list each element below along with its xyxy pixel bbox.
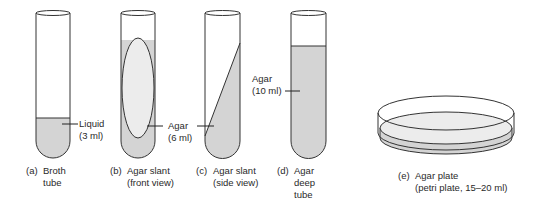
caption-line-2: (petri plate, 15–20 ml) bbox=[398, 182, 507, 194]
caption-line-1: Agar slant bbox=[127, 165, 170, 176]
caption-line-1: Agar slant bbox=[213, 165, 256, 176]
caption-agar-slant-front: (b)Agar slant (front view) bbox=[110, 165, 174, 189]
caption-letter: (c) bbox=[196, 165, 213, 177]
caption-letter: (b) bbox=[110, 165, 127, 177]
caption-line-2: (side view) bbox=[196, 177, 258, 189]
caption-line-3: tube bbox=[277, 189, 315, 201]
caption-line-1: Broth bbox=[43, 165, 66, 176]
broth-tube-illustration bbox=[36, 11, 78, 159]
caption-agar-plate: (e)Agar plate (petri plate, 15–20 ml) bbox=[398, 170, 507, 194]
caption-agar-deep-tube: (d)Agar deep tube bbox=[277, 165, 315, 201]
callout-line-1: Agar bbox=[252, 73, 272, 84]
callout-line-2: (10 ml) bbox=[252, 85, 282, 96]
petri-plate-illustration bbox=[378, 96, 514, 154]
callout-agar-6ml-front: Agar (6 ml) bbox=[168, 120, 192, 143]
caption-letter: (a) bbox=[26, 165, 43, 177]
caption-line-1: Agar bbox=[294, 165, 314, 176]
agar-slant-side-illustration bbox=[197, 11, 240, 159]
agar-slant-front-illustration bbox=[121, 11, 163, 159]
caption-agar-slant-side: (c)Agar slant (side view) bbox=[196, 165, 258, 189]
caption-line-2: (front view) bbox=[110, 177, 174, 189]
callout-line-1: Agar bbox=[168, 120, 188, 131]
caption-letter: (d) bbox=[277, 165, 294, 177]
caption-letter: (e) bbox=[398, 170, 415, 182]
caption-line-2: tube bbox=[26, 177, 66, 189]
caption-broth-tube: (a)Broth tube bbox=[26, 165, 66, 189]
caption-line-2: deep bbox=[277, 177, 315, 189]
callout-line-2: (6 ml) bbox=[168, 132, 192, 143]
callout-agar-10ml: Agar (10 ml) bbox=[252, 73, 282, 96]
callout-line-1: Liquid bbox=[79, 118, 104, 129]
agar-deep-tube-illustration bbox=[285, 11, 326, 159]
caption-line-1: Agar plate bbox=[415, 170, 458, 181]
callout-line-2: (3 ml) bbox=[79, 130, 103, 141]
callout-liquid-3ml: Liquid (3 ml) bbox=[79, 118, 104, 141]
